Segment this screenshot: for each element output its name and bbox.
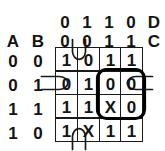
- cell-r2c3: 0: [103, 76, 118, 93]
- cell-r1c3: 1: [103, 52, 118, 69]
- cell-r3c1: 1: [59, 99, 74, 116]
- cell-r4c2: X: [81, 123, 96, 140]
- cell-r3c3: X: [103, 99, 118, 116]
- cell-r1c2: 0: [81, 52, 96, 69]
- cell-r3c4: 0: [124, 99, 139, 116]
- cell-r1c4: 1: [124, 52, 139, 69]
- cell-r2c2: 1: [81, 76, 96, 93]
- cell-r4c1: 1: [59, 123, 74, 140]
- cell-r1c1: 1: [59, 52, 74, 69]
- cell-r4c3: 1: [103, 123, 118, 140]
- cell-r2c4: 0: [124, 76, 139, 93]
- cell-r4c4: 1: [124, 123, 139, 140]
- karnaugh-map-figure: 0 1 1 0 D A B 0 0 1 1 C 0 0 0 1 1 1 1 0: [0, 0, 165, 151]
- cell-r2c1: 0: [59, 76, 74, 93]
- cell-r3c2: 1: [81, 99, 96, 116]
